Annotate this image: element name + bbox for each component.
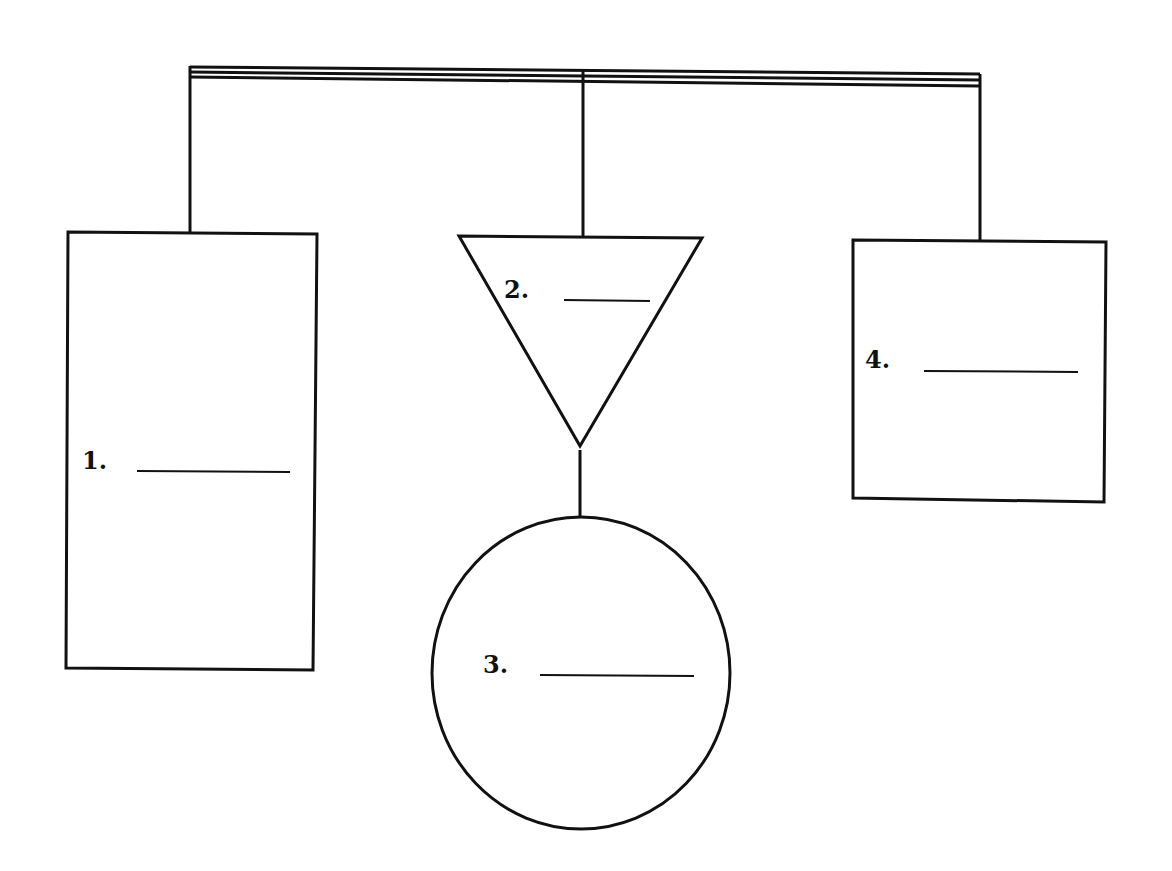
blank-line-1[interactable]: [137, 471, 290, 472]
label-2: 2.: [504, 275, 529, 304]
label-4: 4.: [865, 345, 890, 374]
diagram-canvas: [0, 0, 1172, 871]
label-3: 3.: [483, 650, 508, 679]
blank-line-3[interactable]: [540, 675, 694, 676]
shape-3-circle: [432, 517, 730, 829]
shape-2-triangle: [459, 236, 702, 446]
label-1: 1.: [82, 446, 107, 475]
blank-line-4[interactable]: [924, 371, 1078, 372]
blank-line-2[interactable]: [564, 300, 650, 301]
